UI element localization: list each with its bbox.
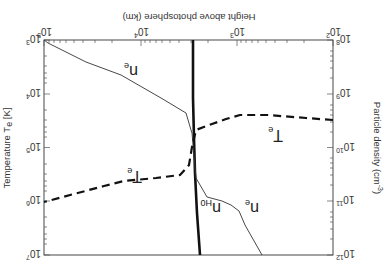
x-tick-label: 104: [134, 26, 149, 39]
y-right-tick-label: 105: [26, 141, 41, 154]
y-right-tick-label: 107: [26, 248, 41, 261]
x-axis-title: Height above photosphere (km): [122, 12, 255, 23]
y-left-tick-label: 109: [336, 87, 351, 100]
y-right-tick-label: 106: [26, 194, 41, 207]
y-left-tick-label: 1012: [336, 248, 355, 261]
y-right-tick-label: 103: [26, 33, 41, 46]
y-left-tick-label: 1011: [336, 194, 354, 207]
y-right-temperature-ticks: [44, 40, 50, 255]
te-curve: [44, 115, 333, 202]
plot-frame: [44, 40, 333, 255]
x-tick-label: 103: [230, 26, 245, 39]
ne-label-upper: ne: [124, 61, 138, 80]
ne-curve: [44, 40, 262, 255]
te-label-lower: Te: [127, 166, 142, 185]
te-label-upper: Te: [268, 125, 283, 144]
nh0-curve: [193, 40, 200, 255]
y-left-density-ticks: [327, 40, 333, 255]
y-right-tick-label: 104: [26, 87, 41, 100]
x-axis-ticks: [44, 40, 333, 46]
ne-label-lower: ne: [245, 198, 259, 217]
nh0-label: nH0: [201, 198, 221, 217]
y-density-title: Particle density (cm-3): [372, 102, 384, 194]
y-left-tick-label: 1010: [336, 141, 355, 154]
x-tick-label: 102: [326, 26, 341, 39]
chart-svg: 102 103 104 105 Height above photosphere…: [0, 0, 386, 273]
chart-container: 102 103 104 105 Height above photosphere…: [0, 0, 386, 273]
y-temperature-title: Temperature Te [K]: [1, 108, 14, 189]
